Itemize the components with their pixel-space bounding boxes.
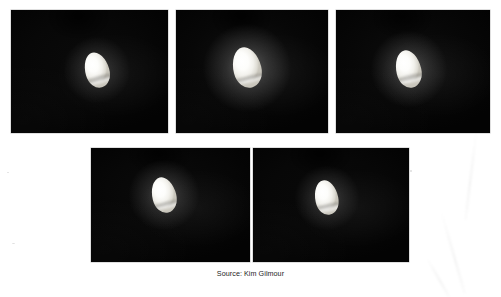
night-sky-background bbox=[11, 10, 168, 133]
photo-panel-2 bbox=[176, 10, 328, 133]
photo-panel-4 bbox=[91, 148, 250, 262]
photo-panel-1 bbox=[11, 10, 168, 133]
night-sky-background bbox=[253, 148, 409, 262]
page-crease-artifact bbox=[440, 211, 465, 293]
photo-panel-3 bbox=[336, 10, 490, 133]
night-sky-background bbox=[336, 10, 490, 133]
night-sky-background bbox=[176, 10, 328, 133]
scan-speck bbox=[7, 172, 9, 173]
scan-speck bbox=[410, 170, 412, 172]
photo-panel-5 bbox=[253, 148, 409, 262]
source-caption: Source: Kim Gilmour bbox=[0, 269, 501, 279]
page-crease-artifact bbox=[465, 130, 478, 220]
night-sky-background bbox=[91, 148, 250, 262]
scan-speck bbox=[12, 243, 15, 244]
